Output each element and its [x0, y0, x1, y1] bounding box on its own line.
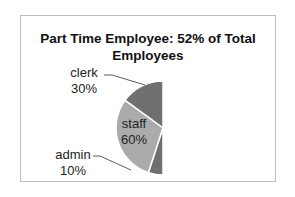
label-clerk: clerk 30% [62, 65, 106, 97]
pie-chart [0, 0, 295, 197]
leader-line-clerk [104, 75, 145, 85]
label-admin: admin 10% [50, 147, 96, 179]
label-staff: staff 60% [112, 116, 156, 148]
leader-line-admin [93, 156, 131, 170]
